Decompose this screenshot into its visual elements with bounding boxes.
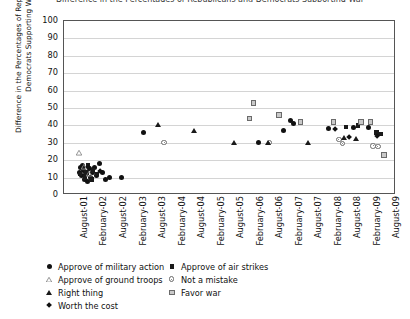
- legend-item[interactable]: Worth the cost: [44, 299, 164, 312]
- legend-item[interactable]: Right thing: [44, 286, 164, 299]
- x-tick-label: February-09: [369, 126, 379, 196]
- x-tick-label: February-06: [252, 126, 262, 196]
- data-point-circle-open: [169, 276, 174, 281]
- legend-label: Approve of military action: [58, 262, 164, 272]
- legend-label: Favor war: [181, 288, 221, 298]
- x-tick-label: August-08: [349, 126, 359, 196]
- legend-marker-triangle-filled-icon: [44, 288, 54, 298]
- legend-column: Approve of air strikesNot a mistakeFavor…: [167, 260, 268, 299]
- x-tick-label: August-02: [115, 126, 125, 196]
- x-tick-label: August-06: [271, 126, 281, 196]
- legend-item[interactable]: Approve of ground troops: [44, 273, 164, 286]
- x-tick-label: February-05: [213, 126, 223, 196]
- x-tick-label: August-09: [388, 126, 398, 196]
- x-tick-label: August-07: [310, 126, 320, 196]
- data-point-square-filled: [170, 264, 174, 268]
- legend-column: Approve of military actionApprove of gro…: [44, 260, 164, 312]
- x-tick-label: August-01: [76, 126, 86, 196]
- legend-label: Right thing: [58, 288, 103, 298]
- chart-root: Difference in the Percentages of Republi…: [0, 0, 410, 319]
- legend-marker-circle-open-icon: [167, 275, 177, 285]
- chart-legend: Approve of military actionApprove of gro…: [44, 260, 304, 312]
- x-tick-label: August-04: [193, 126, 203, 196]
- legend-item[interactable]: Favor war: [167, 286, 268, 299]
- legend-item[interactable]: Approve of air strikes: [167, 260, 268, 273]
- legend-label: Approve of ground troops: [58, 275, 163, 285]
- legend-item[interactable]: Approve of military action: [44, 260, 164, 273]
- x-tick-label: February-03: [135, 126, 145, 196]
- legend-marker-square-filled-icon: [167, 262, 177, 272]
- x-tick-label: February-04: [174, 126, 184, 196]
- data-point-triangle-open: [46, 277, 52, 282]
- data-point-circle-filled: [47, 264, 52, 269]
- data-point-square-open: [169, 290, 175, 296]
- x-tick-label: August-05: [232, 126, 242, 196]
- data-point-diamond-filled: [46, 303, 52, 309]
- x-tick-label: February-07: [291, 126, 301, 196]
- legend-label: Worth the cost: [58, 301, 118, 311]
- legend-marker-diamond-filled-icon: [44, 301, 54, 311]
- x-tick-label: February-02: [95, 126, 105, 196]
- legend-marker-square-open-icon: [167, 288, 177, 298]
- x-tick-label: August-03: [154, 126, 164, 196]
- data-point-triangle-filled: [46, 290, 52, 295]
- legend-item[interactable]: Not a mistake: [167, 273, 268, 286]
- legend-label: Approve of air strikes: [181, 262, 268, 272]
- legend-marker-triangle-open-icon: [44, 275, 54, 285]
- x-tick-label: February-08: [330, 126, 340, 196]
- legend-marker-circle-filled-icon: [44, 262, 54, 272]
- legend-label: Not a mistake: [181, 275, 238, 285]
